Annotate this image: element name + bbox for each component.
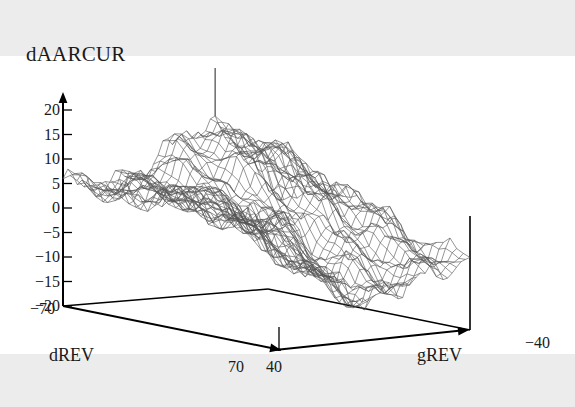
z-axis-tick-label: 0 bbox=[52, 199, 60, 217]
z-axis-tick-label: 5 bbox=[52, 175, 60, 193]
z-axis-tick-label: 15 bbox=[44, 126, 60, 144]
z-axis-tick-label: −5 bbox=[43, 224, 60, 242]
y-axis-label: gREV bbox=[417, 345, 462, 366]
x-axis-tick-min: −70 bbox=[30, 300, 55, 318]
z-axis-tick-label: −15 bbox=[35, 273, 60, 291]
z-axis-tick-label: 10 bbox=[44, 150, 60, 168]
x-axis-label: dREV bbox=[49, 345, 94, 366]
y-axis-tick-min: 40 bbox=[266, 358, 282, 376]
y-axis-tick-max: −40 bbox=[525, 334, 550, 352]
z-axis-tick-label: −10 bbox=[35, 248, 60, 266]
surface-plot-figure: dAARCUR 20151050−5−10−15−20 dREV gREV −7… bbox=[0, 0, 575, 407]
x-axis-tick-max: 70 bbox=[228, 358, 244, 376]
plot-area-background bbox=[0, 56, 575, 354]
z-axis-tick-label: 20 bbox=[44, 101, 60, 119]
